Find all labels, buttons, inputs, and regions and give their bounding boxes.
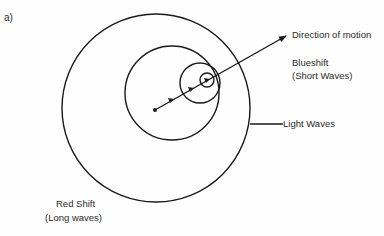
redshift-label: Red Shift xyxy=(56,198,95,210)
wavefront-middle xyxy=(125,46,219,140)
direction-label: Direction of motion xyxy=(292,29,371,41)
wavefront-outer xyxy=(62,14,250,202)
source-dot xyxy=(153,108,157,112)
blueshift-sublabel: (Short Waves) xyxy=(292,70,352,82)
direction-arrow xyxy=(155,36,286,110)
redshift-sublabel: (Long waves) xyxy=(45,212,102,224)
blueshift-label: Blueshift xyxy=(292,57,328,69)
light-waves-label: Light Waves xyxy=(283,118,335,130)
doppler-diagram: a) Direction of motion Blueshift (Short … xyxy=(0,0,384,236)
